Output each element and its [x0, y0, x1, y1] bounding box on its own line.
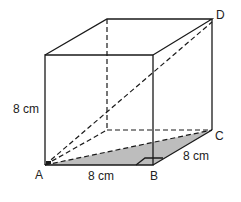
cube-diagram: D C A B 8 cm 8 cm 8 cm — [0, 0, 241, 202]
label-ab-length: 8 cm — [88, 169, 114, 183]
label-height: 8 cm — [13, 102, 39, 116]
label-a: A — [35, 168, 43, 182]
label-bc-length: 8 cm — [183, 149, 209, 163]
label-b: B — [150, 169, 158, 183]
label-d: D — [216, 8, 225, 22]
top-face — [45, 19, 212, 55]
label-c: C — [215, 129, 224, 143]
right-angle-marker-a — [46, 161, 51, 164]
